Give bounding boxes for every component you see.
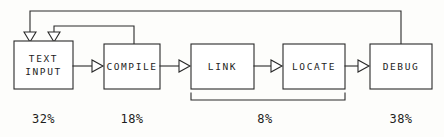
percent-label-link-locate-group: 8% <box>257 112 273 126</box>
arrowhead-right-icon <box>179 60 190 72</box>
feedback-loop-debug-to-text-input <box>24 11 401 44</box>
stage-label-line2: INPUT <box>25 66 62 77</box>
stage-label-line1: COMPILE <box>106 61 157 72</box>
stage-label-line1: LOCATE <box>292 61 336 72</box>
percent-label-debug: 38% <box>389 112 412 126</box>
stage-label-line1: LINK <box>208 61 237 72</box>
group-bracket-link-locate <box>191 93 345 100</box>
process-flow-diagram: TEXT INPUT COMPILE LINK LOCATE DEBUG <box>0 0 444 137</box>
arrowhead-right-icon <box>92 60 103 72</box>
arrow-locate-to-debug <box>345 60 369 72</box>
arrowhead-right-icon <box>271 60 282 72</box>
arrow-link-to-locate <box>254 60 282 72</box>
stage-label-line1: DEBUG <box>383 61 420 72</box>
arrow-text-input-to-compile <box>73 60 103 72</box>
arrowhead-right-icon <box>358 60 369 72</box>
arrow-compile-to-link <box>160 60 190 72</box>
stage-text-input[interactable]: TEXT INPUT <box>14 41 73 89</box>
stage-locate[interactable]: LOCATE <box>283 44 345 89</box>
stage-compile[interactable]: COMPILE <box>104 44 160 89</box>
stage-link[interactable]: LINK <box>191 44 254 89</box>
stage-debug[interactable]: DEBUG <box>370 44 432 89</box>
percent-label-compile: 18% <box>120 112 143 126</box>
percent-label-text-input: 32% <box>32 112 55 126</box>
stage-label-line1: TEXT <box>29 53 58 64</box>
